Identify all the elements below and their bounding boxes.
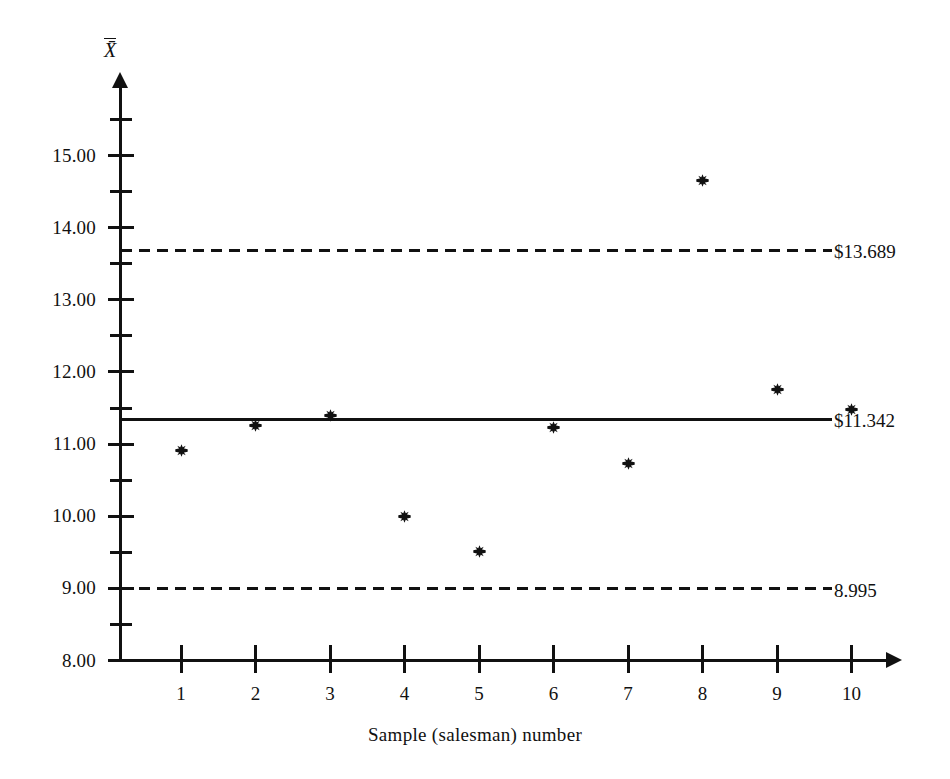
y-axis-tick-minor: [110, 190, 132, 193]
upper-control-limit-label: $13.689: [834, 242, 896, 261]
x-axis-tick: [329, 645, 332, 673]
data-point: [324, 409, 337, 422]
y-axis-tick-label: 12.00: [34, 362, 96, 381]
data-point: [622, 457, 635, 470]
y-axis-tick-major: [108, 298, 134, 301]
y-axis-tick-label-text: 11.00: [34, 434, 96, 453]
x-axis-tick: [701, 645, 704, 673]
y-axis-title: X̄: [104, 38, 116, 60]
data-point: [696, 174, 709, 187]
x-axis-title: Sample (salesman) number: [0, 725, 950, 744]
y-axis-tick-label-text: 15.00: [34, 146, 96, 165]
x-axis-line: [119, 659, 889, 662]
x-axis-tick: [776, 645, 779, 673]
y-axis-arrow-icon: [112, 72, 128, 88]
x-axis-tick-label: 4: [385, 684, 425, 703]
y-axis-tick-major: [108, 370, 134, 373]
data-point: [547, 421, 560, 434]
y-axis-tick-label-text: 13.00: [34, 290, 96, 309]
upper-control-limit-line: [121, 249, 832, 252]
lower-control-limit-line: [121, 587, 832, 590]
y-axis-tick-label-text: 12.00: [34, 362, 96, 381]
x-axis-tick-label: 7: [608, 684, 648, 703]
y-axis-tick-minor: [110, 623, 132, 626]
lower-control-limit-label: 8.995: [834, 581, 877, 600]
data-point: [771, 383, 784, 396]
x-axis-tick: [850, 645, 853, 673]
y-axis-tick-minor: [110, 551, 132, 554]
x-axis-tick: [552, 645, 555, 673]
x-axis-tick-label: 2: [236, 684, 276, 703]
y-axis-tick-major: [108, 443, 134, 446]
y-axis-tick-label: 11.00: [34, 434, 96, 453]
x-axis-tick: [180, 645, 183, 673]
data-point: [249, 419, 262, 432]
y-axis-tick-label: 10.00: [34, 506, 96, 525]
y-axis-tick-label: 14.00: [34, 218, 96, 237]
control-chart: X̄ Sample (salesman) number 15.0014.0013…: [0, 0, 950, 779]
y-axis-tick-label: 9.00: [34, 578, 96, 597]
x-axis-tick-label: 9: [757, 684, 797, 703]
y-axis-tick-label-text: 10.00: [34, 506, 96, 525]
x-axis-tick-label: 8: [683, 684, 723, 703]
y-axis-title-label: X̄: [104, 38, 116, 60]
y-axis-tick-label: 8.00: [34, 651, 96, 670]
y-axis-tick-minor: [110, 334, 132, 337]
x-axis-tick-label: 1: [161, 684, 201, 703]
y-axis-tick-label: 13.00: [34, 290, 96, 309]
x-axis-tick: [254, 645, 257, 673]
y-axis-tick-major: [108, 226, 134, 229]
x-axis-tick: [627, 645, 630, 673]
x-axis-tick-label: 6: [534, 684, 574, 703]
y-axis-tick-major: [108, 659, 134, 662]
y-axis-tick-minor: [110, 118, 132, 121]
y-axis-tick-minor: [110, 479, 132, 482]
data-point: [398, 510, 411, 523]
x-axis-tick-label: 5: [459, 684, 499, 703]
x-axis-tick: [403, 645, 406, 673]
y-axis-tick-minor: [110, 407, 132, 410]
center-line-label: $11.342: [834, 411, 895, 430]
y-axis-tick-label-text: 9.00: [34, 578, 96, 597]
data-point: [175, 444, 188, 457]
x-axis-tick-label: 10: [832, 684, 872, 703]
y-axis-tick-label-text: 8.00: [34, 651, 96, 670]
y-axis-tick-label-text: 14.00: [34, 218, 96, 237]
x-axis-tick-label: 3: [310, 684, 350, 703]
data-point: [473, 545, 486, 558]
data-point: [845, 403, 858, 416]
center-line-line: [121, 418, 832, 421]
x-axis-tick: [478, 645, 481, 673]
x-axis-arrow-icon: [886, 652, 902, 668]
y-axis-tick-label: 15.00: [34, 146, 96, 165]
y-axis-tick-minor: [110, 262, 132, 265]
y-axis-tick-major: [108, 154, 134, 157]
y-axis-tick-major: [108, 515, 134, 518]
